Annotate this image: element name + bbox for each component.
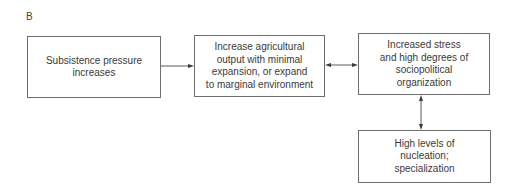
arrowhead-left-icon bbox=[325, 63, 331, 67]
sociopolitical-stress-text: Increased stress and high degrees of soc… bbox=[380, 39, 468, 89]
arrow-agricultural-stress-bidirectional bbox=[325, 63, 358, 67]
sociopolitical-stress-box: Increased stress and high degrees of soc… bbox=[358, 33, 490, 95]
subsistence-pressure-text: Subsistence pressure increases bbox=[46, 55, 142, 80]
arrow-stress-nucleation-bidirectional bbox=[419, 95, 423, 130]
nucleation-specialization-text: High levels of nucleation; specializatio… bbox=[394, 138, 454, 176]
arrow-subsistence-to-agricultural bbox=[161, 64, 194, 68]
panel-label: B bbox=[26, 11, 33, 22]
nucleation-specialization-box: High levels of nucleation; specializatio… bbox=[358, 130, 491, 183]
arrowhead-up-icon bbox=[419, 95, 423, 101]
agricultural-output-box: Increase agricultural output with minima… bbox=[194, 35, 325, 97]
subsistence-pressure-box: Subsistence pressure increases bbox=[27, 36, 161, 98]
agricultural-output-text: Increase agricultural output with minima… bbox=[206, 41, 313, 91]
